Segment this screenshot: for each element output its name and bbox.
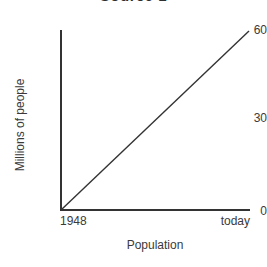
- x-axis-title: Population: [60, 238, 250, 252]
- data-series-line: [60, 30, 250, 211]
- plot-area: [60, 30, 250, 211]
- y-axis-title: Millions of people: [13, 65, 27, 185]
- y-axis-tick-label-30: 30: [227, 112, 267, 124]
- x-axis-tick-label-today: today: [221, 215, 250, 227]
- chart-title: Source 1: [0, 0, 267, 4]
- x-axis-tick-label-1948: 1948: [60, 215, 87, 227]
- chart-figure: Source 1 60 30 0 1948 today Population M…: [0, 0, 267, 267]
- y-axis-tick-label-60: 60: [227, 24, 267, 36]
